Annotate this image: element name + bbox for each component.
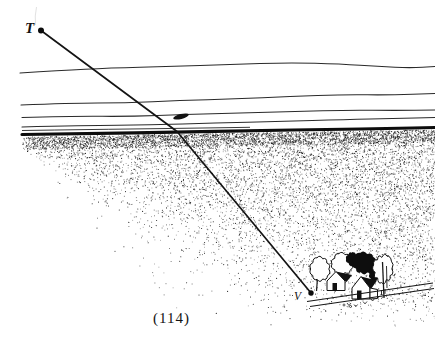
point-v-dot <box>308 290 313 295</box>
point-v-label: V <box>294 290 301 302</box>
print-smudge <box>35 7 36 25</box>
tree-icon <box>310 256 330 281</box>
house-door <box>333 283 338 291</box>
house-door <box>357 291 362 300</box>
illustration-canvas <box>0 0 435 349</box>
figure-caption: (114) <box>153 310 190 327</box>
point-t-label: T <box>25 20 34 37</box>
village-icon <box>307 252 434 308</box>
boat-icon <box>173 112 190 121</box>
water-surface-lines <box>20 63 435 127</box>
point-t-dot <box>38 28 44 34</box>
figure-illustration: T V (114) <box>0 0 435 349</box>
